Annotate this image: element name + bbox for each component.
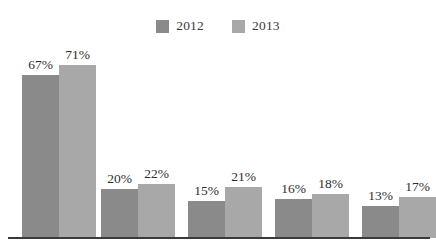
bar-value-2013-2: 21%	[219, 170, 268, 184]
bar-2012-4[interactable]	[362, 206, 399, 238]
bar-2012-0[interactable]	[22, 75, 59, 238]
bar-2012-3[interactable]	[275, 199, 312, 238]
bar-2013-2[interactable]	[225, 187, 262, 238]
bar-2013-1[interactable]	[138, 184, 175, 238]
bar-value-2012-2: 15%	[182, 184, 231, 198]
plot-area: 67%20%15%16%13%71%22%21%18%17%	[0, 0, 436, 244]
bar-value-2013-3: 18%	[306, 177, 355, 191]
bar-2013-3[interactable]	[312, 194, 349, 238]
bar-2013-0[interactable]	[59, 65, 96, 238]
x-axis-baseline	[8, 237, 430, 239]
bar-2012-1[interactable]	[101, 189, 138, 238]
bar-value-2013-0: 71%	[53, 48, 102, 62]
bar-2012-2[interactable]	[188, 201, 225, 238]
bar-value-2013-1: 22%	[132, 167, 181, 181]
bar-2013-4[interactable]	[399, 197, 436, 238]
bar-value-2013-4: 17%	[393, 180, 436, 194]
bar-chart: 2012 2013 67%20%15%16%13%71%22%21%18%17%	[0, 0, 436, 244]
